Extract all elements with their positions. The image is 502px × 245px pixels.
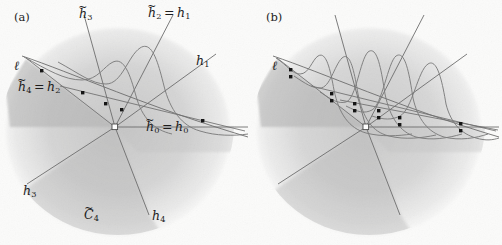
h-glyph-rhs: h [177, 5, 185, 20]
panel-a-label-h0-tilde-eq-h0: h0=h0 [146, 121, 188, 134]
equals-sign: = [162, 119, 172, 134]
h-glyph: h [196, 53, 204, 68]
subscript-rhs: 2 [55, 85, 60, 95]
paper-grain-overlay [0, 0, 502, 245]
panel-b-tag: (b) [266, 12, 282, 24]
subscript: 2 [156, 11, 161, 21]
panel-a-label-h4-tilde-eq-h2: h4=h2 [18, 81, 60, 94]
h-glyph: h [79, 8, 87, 21]
panel-a-label-h2-tilde-eq-h1: h2=h1 [148, 7, 190, 20]
panel-a-label-ell: ℓ [14, 60, 19, 73]
subscript: 3 [31, 189, 36, 199]
h-glyph: h [146, 121, 154, 134]
subscript: 4 [160, 214, 165, 224]
panel-a-label-h4: h4 [152, 210, 165, 223]
subscript-rhs: 1 [185, 11, 190, 21]
subscript: 1 [204, 59, 209, 69]
equals-sign: = [164, 5, 174, 20]
subscript: 4 [26, 85, 31, 95]
h-glyph-rhs: h [175, 119, 183, 134]
subscript: 3 [87, 12, 92, 22]
h-glyph: h [23, 183, 31, 198]
panel-b-label-ell: ℓ [272, 60, 277, 73]
c-glyph: C [84, 209, 94, 222]
panel-a-label-h3-tilde: h3 [79, 8, 92, 21]
panel-a-label-h3: h3 [23, 185, 36, 198]
ell-glyph: ℓ [14, 58, 19, 73]
figure-root: (a) (b) ℓ h3 h2=h1 h1 h4=h2 h0=h0 h3 C4 … [0, 0, 502, 245]
h-glyph: h [148, 7, 156, 20]
h-glyph: h [152, 208, 160, 223]
ell-glyph: ℓ [272, 58, 277, 73]
panel-a-tag: (a) [14, 12, 30, 24]
h-glyph: h [18, 81, 26, 94]
panel-a-label-c4-tilde: C4 [84, 209, 99, 222]
equals-sign: = [34, 79, 44, 94]
h-glyph-rhs: h [47, 79, 55, 94]
subscript-rhs: 0 [183, 125, 188, 135]
subscript: 0 [154, 125, 159, 135]
figure-canvas [0, 0, 502, 245]
subscript: 4 [94, 213, 99, 223]
panel-a-label-h1: h1 [196, 55, 209, 68]
